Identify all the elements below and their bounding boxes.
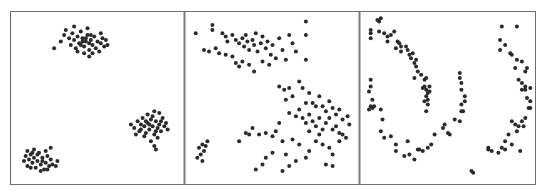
data-point bbox=[513, 123, 517, 127]
data-point bbox=[277, 84, 281, 88]
data-point bbox=[237, 65, 241, 69]
data-point bbox=[304, 33, 308, 37]
data-point bbox=[458, 71, 462, 75]
data-point bbox=[382, 136, 386, 140]
data-point bbox=[284, 152, 288, 156]
data-point bbox=[234, 38, 238, 42]
data-point bbox=[22, 159, 26, 163]
data-point bbox=[443, 123, 447, 127]
data-point bbox=[45, 154, 49, 158]
data-point bbox=[304, 121, 308, 125]
data-point bbox=[324, 121, 328, 125]
data-point bbox=[67, 36, 71, 40]
data-point bbox=[269, 53, 273, 57]
data-point bbox=[154, 119, 158, 123]
data-point bbox=[458, 76, 462, 80]
data-point bbox=[281, 169, 285, 173]
data-point bbox=[334, 124, 338, 128]
data-point bbox=[55, 159, 59, 163]
data-point bbox=[79, 43, 83, 47]
data-point bbox=[64, 28, 68, 32]
data-point bbox=[132, 126, 136, 130]
data-point bbox=[86, 26, 90, 30]
data-point bbox=[394, 46, 398, 50]
data-point bbox=[424, 109, 428, 113]
data-point bbox=[402, 154, 406, 158]
data-point bbox=[307, 91, 311, 95]
data-point bbox=[151, 114, 155, 118]
data-point bbox=[245, 40, 249, 44]
data-point bbox=[503, 139, 507, 143]
data-point bbox=[35, 159, 39, 163]
data-point bbox=[252, 43, 256, 47]
data-point bbox=[76, 50, 80, 54]
data-point bbox=[199, 152, 203, 156]
data-point bbox=[159, 129, 163, 133]
data-point bbox=[79, 30, 83, 34]
data-point bbox=[379, 129, 383, 133]
data-point bbox=[399, 45, 403, 49]
data-point bbox=[500, 25, 504, 29]
data-point bbox=[237, 41, 241, 45]
data-point bbox=[277, 36, 281, 40]
data-point bbox=[369, 84, 373, 88]
data-point bbox=[307, 149, 311, 153]
data-point bbox=[220, 31, 224, 35]
data-point bbox=[210, 23, 214, 27]
data-point bbox=[515, 25, 519, 29]
data-point bbox=[453, 118, 457, 122]
data-point bbox=[409, 56, 413, 60]
data-point bbox=[34, 166, 38, 170]
data-point bbox=[214, 46, 218, 50]
data-point bbox=[406, 139, 410, 143]
data-point bbox=[147, 123, 151, 127]
data-point bbox=[266, 40, 270, 44]
data-point bbox=[304, 156, 308, 160]
data-point bbox=[287, 164, 291, 168]
data-point bbox=[159, 119, 163, 123]
data-point bbox=[274, 56, 278, 60]
data-point bbox=[314, 104, 318, 108]
data-point bbox=[82, 51, 86, 55]
data-point bbox=[518, 149, 522, 153]
data-point bbox=[307, 129, 311, 133]
data-point bbox=[230, 33, 234, 37]
data-point bbox=[224, 53, 228, 57]
data-point bbox=[99, 31, 103, 35]
data-point bbox=[459, 81, 463, 85]
data-point bbox=[264, 156, 268, 160]
data-point bbox=[486, 146, 490, 150]
data-point bbox=[70, 31, 74, 35]
data-point bbox=[347, 123, 351, 127]
data-point bbox=[510, 53, 514, 57]
data-point bbox=[458, 119, 462, 123]
data-point bbox=[282, 88, 286, 92]
panel-divider-1 bbox=[184, 11, 186, 185]
data-point bbox=[195, 156, 199, 160]
data-point bbox=[141, 116, 145, 120]
data-point bbox=[503, 43, 507, 47]
data-point bbox=[369, 31, 373, 35]
data-point bbox=[284, 58, 288, 62]
data-point bbox=[144, 119, 148, 123]
data-point bbox=[106, 43, 110, 47]
data-point bbox=[459, 88, 463, 92]
data-point bbox=[421, 149, 425, 153]
data-point bbox=[311, 101, 315, 105]
data-point bbox=[35, 152, 39, 156]
data-point bbox=[76, 35, 80, 39]
data-point bbox=[520, 60, 524, 64]
data-point bbox=[498, 48, 502, 52]
data-point bbox=[394, 149, 398, 153]
data-point bbox=[419, 73, 423, 77]
data-point bbox=[428, 89, 432, 93]
data-point bbox=[523, 116, 527, 120]
data-point bbox=[412, 76, 416, 80]
data-point bbox=[294, 159, 298, 163]
data-point bbox=[267, 63, 271, 67]
data-point bbox=[207, 50, 211, 54]
data-point bbox=[510, 119, 514, 123]
data-point bbox=[307, 113, 311, 117]
data-point bbox=[204, 144, 208, 148]
data-point bbox=[237, 139, 241, 143]
